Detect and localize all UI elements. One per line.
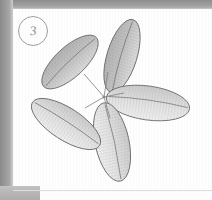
- scan-edge-top: [0, 0, 212, 9]
- figure-number-badge: 3: [18, 16, 48, 46]
- page-bottom-seam: [13, 190, 212, 191]
- top-petal: [97, 15, 148, 96]
- petal-group: [24, 15, 192, 184]
- screenshot-root: 3: [0, 0, 212, 200]
- scan-edge-left: [0, 0, 13, 193]
- scan-edge-bottom-left: [0, 186, 40, 200]
- figure-number-label: 3: [29, 23, 36, 36]
